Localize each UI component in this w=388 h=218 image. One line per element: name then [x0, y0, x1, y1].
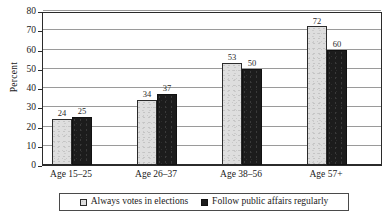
- x-axis-category-label: Age 57+: [309, 170, 342, 180]
- y-axis-tick-label: 20: [27, 123, 37, 133]
- y-axis-ticks: 01020304050607080: [0, 12, 42, 166]
- legend-item[interactable]: Always votes in elections: [80, 197, 188, 207]
- legend-item[interactable]: Follow public affairs regularly: [201, 197, 328, 207]
- x-axis-category-labels: Age 15–25Age 26–37Age 38–56Age 57+: [42, 170, 382, 184]
- bar[interactable]: 37: [157, 94, 177, 165]
- y-axis-tick-label: 0: [31, 161, 36, 171]
- y-axis-tick-label: 40: [27, 84, 37, 94]
- y-axis-tick-label: 30: [27, 104, 37, 114]
- bar[interactable]: 72: [307, 26, 327, 165]
- bar-value-label: 24: [58, 109, 67, 118]
- y-axis-tick-label: 80: [27, 7, 37, 17]
- chart-legend: Always votes in electionsFollow public a…: [59, 193, 349, 211]
- bar-value-label: 25: [78, 107, 87, 116]
- y-axis-tick-label: 10: [27, 142, 37, 152]
- legend-swatch-dark: [201, 199, 208, 206]
- x-axis-category-label: Age 15–25: [50, 170, 92, 180]
- bar-value-label: 53: [228, 53, 237, 62]
- bar-chart-figure: Percent 01020304050607080 24253437535072…: [0, 0, 388, 218]
- y-axis-tick-label: 70: [27, 27, 37, 37]
- bar-value-label: 60: [333, 40, 342, 49]
- legend-label: Follow public affairs regularly: [212, 197, 328, 207]
- bar-group: 2425: [43, 13, 128, 165]
- bar[interactable]: 34: [137, 100, 157, 165]
- bar-value-label: 37: [163, 84, 172, 93]
- bar-value-label: 50: [248, 59, 257, 68]
- bar[interactable]: 60: [327, 50, 347, 166]
- bar-group: 5350: [213, 13, 298, 165]
- y-axis-tick-label: 50: [27, 65, 37, 75]
- legend-swatch-light: [80, 199, 87, 206]
- y-axis-tick-label: 60: [27, 46, 37, 56]
- bar[interactable]: 53: [222, 63, 242, 165]
- bar[interactable]: 50: [242, 69, 262, 165]
- bar-group: 3437: [128, 13, 213, 165]
- bar-value-label: 72: [313, 17, 322, 26]
- bar[interactable]: 24: [52, 119, 72, 165]
- gridline: [43, 10, 381, 11]
- x-axis-category-label: Age 38–56: [220, 170, 262, 180]
- bars-layer: 2425343753507260: [43, 13, 381, 165]
- bar[interactable]: 25: [72, 117, 92, 165]
- y-axis-tick-mark: [38, 166, 42, 167]
- legend-label: Always votes in elections: [91, 197, 188, 207]
- bar-group: 7260: [298, 13, 383, 165]
- bar-value-label: 34: [143, 90, 152, 99]
- plot-area: 2425343753507260: [42, 12, 382, 166]
- x-axis-category-label: Age 26–37: [135, 170, 177, 180]
